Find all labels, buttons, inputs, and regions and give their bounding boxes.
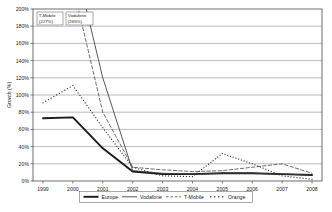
data-point bbox=[132, 167, 133, 168]
data-point bbox=[305, 178, 306, 179]
data-point bbox=[183, 176, 184, 177]
data-point bbox=[238, 159, 239, 160]
data-point bbox=[141, 169, 142, 170]
data-point bbox=[51, 97, 52, 98]
data-point bbox=[186, 176, 187, 177]
data-point bbox=[111, 139, 112, 140]
data-point bbox=[174, 176, 175, 177]
data-point bbox=[88, 107, 89, 108]
data-point bbox=[127, 160, 128, 161]
data-point bbox=[294, 177, 295, 178]
legend-label: Europe bbox=[102, 194, 119, 200]
y-tick-label: 120% bbox=[16, 75, 30, 81]
data-point bbox=[76, 90, 77, 91]
data-point bbox=[297, 177, 298, 178]
data-point bbox=[104, 129, 105, 130]
data-point bbox=[48, 99, 49, 100]
data-point bbox=[263, 168, 264, 169]
data-point bbox=[156, 174, 157, 175]
y-tick-label: 100% bbox=[16, 92, 30, 98]
data-point bbox=[203, 167, 204, 168]
data-point bbox=[165, 175, 166, 176]
data-point bbox=[254, 164, 255, 165]
y-tick-label: 80% bbox=[19, 109, 30, 115]
data-point bbox=[225, 154, 226, 155]
data-point bbox=[302, 178, 303, 179]
annotation-value: (227%) bbox=[39, 19, 54, 24]
data-point bbox=[102, 127, 103, 128]
x-tick-label: 2000 bbox=[67, 186, 79, 192]
data-point bbox=[265, 169, 266, 170]
data-point bbox=[64, 90, 65, 91]
legend-swatch bbox=[222, 196, 223, 197]
data-point bbox=[177, 176, 178, 177]
y-axis-title: Growth (%) bbox=[6, 82, 12, 109]
y-tick-label: 160% bbox=[16, 40, 30, 46]
data-point bbox=[257, 165, 258, 166]
data-point bbox=[273, 172, 274, 173]
data-point bbox=[271, 171, 272, 172]
data-point bbox=[222, 153, 223, 154]
data-point bbox=[171, 176, 172, 177]
data-point bbox=[260, 167, 261, 168]
data-point bbox=[213, 160, 214, 161]
data-point bbox=[282, 175, 283, 176]
data-point bbox=[61, 91, 62, 92]
data-point bbox=[79, 95, 80, 96]
data-point bbox=[113, 141, 114, 142]
chart-container: 0%20%40%60%80%100%120%140%160%180%200% G… bbox=[0, 0, 332, 212]
data-point bbox=[201, 169, 202, 170]
data-point bbox=[85, 102, 86, 103]
legend-label: T-Mobile bbox=[184, 194, 204, 200]
data-point bbox=[78, 92, 79, 93]
data-point bbox=[108, 134, 109, 135]
data-point bbox=[116, 146, 117, 147]
x-tick-label: 2006 bbox=[246, 186, 258, 192]
y-tick-label: 200% bbox=[16, 6, 30, 12]
data-point bbox=[67, 88, 68, 89]
data-point bbox=[135, 168, 136, 169]
data-point bbox=[194, 174, 195, 175]
data-point bbox=[206, 165, 207, 166]
data-point bbox=[123, 155, 124, 156]
x-tick-label: 2005 bbox=[217, 186, 229, 192]
data-point bbox=[45, 101, 46, 102]
y-tick-label: 0% bbox=[22, 178, 30, 184]
y-tick-label: 140% bbox=[16, 58, 30, 64]
data-point bbox=[72, 85, 73, 86]
data-point bbox=[74, 87, 75, 88]
legend-label: Orange bbox=[228, 194, 245, 200]
data-point bbox=[147, 171, 148, 172]
growth-line-chart: 0%20%40%60%80%100%120%140%160%180%200% G… bbox=[0, 0, 332, 212]
data-point bbox=[215, 158, 216, 159]
annotation-t-mobile-peak: T-Mobile(227%) bbox=[37, 12, 63, 25]
data-point bbox=[252, 163, 253, 164]
y-tick-label: 60% bbox=[19, 126, 30, 132]
data-point bbox=[90, 110, 91, 111]
data-point bbox=[125, 157, 126, 158]
x-tick-label: 2008 bbox=[306, 186, 318, 192]
data-point bbox=[180, 176, 181, 177]
data-point bbox=[159, 174, 160, 175]
data-point bbox=[93, 115, 94, 116]
data-point bbox=[299, 177, 300, 178]
data-point bbox=[130, 164, 131, 165]
data-point bbox=[144, 170, 145, 171]
chart-legend: EuropeVodafoneT-MobileOrange bbox=[80, 192, 253, 203]
data-point bbox=[168, 175, 169, 176]
x-tick-label: 2001 bbox=[97, 186, 109, 192]
data-point bbox=[227, 155, 228, 156]
chart-background bbox=[0, 0, 332, 212]
data-point bbox=[162, 175, 163, 176]
data-point bbox=[86, 105, 87, 106]
data-point bbox=[288, 176, 289, 177]
data-point bbox=[279, 174, 280, 175]
data-point bbox=[249, 162, 250, 163]
y-tick-label: 180% bbox=[16, 23, 30, 29]
data-point bbox=[70, 87, 71, 88]
data-point bbox=[217, 157, 218, 158]
data-point bbox=[244, 160, 245, 161]
data-point bbox=[99, 122, 100, 123]
data-point bbox=[268, 170, 269, 171]
data-point bbox=[192, 176, 193, 177]
